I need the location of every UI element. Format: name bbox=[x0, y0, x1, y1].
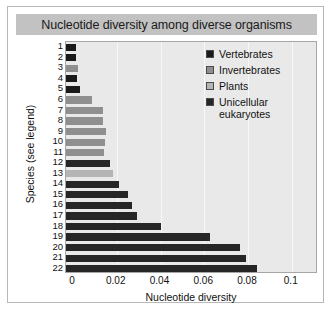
x-axis-ticklabel: 0 bbox=[69, 275, 75, 286]
y-axis-ticklabel: 9 bbox=[58, 126, 63, 136]
x-axis-title: Nucleotide diversity bbox=[65, 291, 317, 303]
x-axis-ticklabels: 00.020.040.060.080.1 bbox=[8, 275, 331, 289]
y-axis-ticklabel: 6 bbox=[58, 94, 63, 104]
y-axis-ticklabel: 13 bbox=[52, 168, 63, 178]
bar bbox=[66, 65, 78, 72]
x-axis-ticklabel: 0.06 bbox=[194, 275, 213, 286]
y-axis-ticklabel: 3 bbox=[58, 62, 63, 72]
legend-swatch-icon bbox=[206, 50, 214, 58]
bar bbox=[66, 212, 137, 219]
bar bbox=[66, 139, 105, 146]
bar bbox=[66, 149, 104, 156]
y-axis-ticklabel: 5 bbox=[58, 83, 63, 93]
y-axis-ticklabel: 7 bbox=[58, 105, 63, 115]
bar bbox=[66, 170, 113, 177]
y-axis-title: Species (see legend) bbox=[24, 89, 36, 219]
legend-item: Unicellulareukaryotes bbox=[206, 96, 310, 120]
bar bbox=[66, 223, 161, 230]
chart-title: Nucleotide diversity among diverse organ… bbox=[41, 18, 292, 32]
chart-title-bar: Nucleotide diversity among diverse organ… bbox=[16, 14, 317, 35]
x-axis-ticklabel: 0.04 bbox=[150, 275, 169, 286]
y-axis-ticklabel: 22 bbox=[52, 263, 63, 273]
y-axis-ticklabel: 17 bbox=[52, 210, 63, 220]
legend-label: Vertebrates bbox=[219, 48, 273, 60]
legend-swatch-icon bbox=[206, 98, 214, 106]
bar bbox=[66, 202, 132, 209]
legend-item: Vertebrates bbox=[206, 48, 310, 60]
x-axis-ticklabel: 0.1 bbox=[284, 275, 298, 286]
legend-label: Plants bbox=[219, 80, 248, 92]
figure-frame: Nucleotide diversity among diverse organ… bbox=[7, 6, 324, 303]
y-axis-ticklabels: 12345678910111213141516171819202122 bbox=[42, 41, 63, 273]
bar bbox=[66, 75, 77, 82]
x-axis-ticklabel: 0.08 bbox=[237, 275, 256, 286]
legend-item: Plants bbox=[206, 80, 310, 92]
legend-swatch-icon bbox=[206, 66, 214, 74]
y-axis-ticklabel: 11 bbox=[53, 147, 63, 157]
bar bbox=[66, 191, 128, 198]
bar bbox=[66, 160, 110, 167]
y-axis-ticklabel: 18 bbox=[52, 221, 63, 231]
chart-legend: VertebratesInvertebratesPlantsUnicellula… bbox=[206, 48, 310, 124]
legend-label: Unicellulareukaryotes bbox=[219, 96, 270, 120]
bar bbox=[66, 44, 76, 51]
y-axis-ticklabel: 21 bbox=[52, 252, 63, 262]
bar bbox=[66, 244, 240, 251]
y-axis-ticklabel: 16 bbox=[52, 199, 63, 209]
bar bbox=[66, 86, 80, 93]
bar bbox=[66, 233, 210, 240]
bar bbox=[66, 181, 119, 188]
legend-label: Invertebrates bbox=[219, 64, 280, 76]
y-axis-ticklabel: 4 bbox=[58, 73, 63, 83]
legend-swatch-icon bbox=[206, 82, 214, 90]
bar bbox=[66, 265, 257, 272]
y-axis-ticklabel: 10 bbox=[52, 136, 63, 146]
x-axis-ticklabel: 0.02 bbox=[106, 275, 125, 286]
y-axis-ticklabel: 12 bbox=[52, 157, 63, 167]
y-axis-ticklabel: 8 bbox=[58, 115, 63, 125]
bar bbox=[66, 117, 103, 124]
y-axis-ticklabel: 1 bbox=[58, 41, 63, 51]
bar bbox=[66, 96, 92, 103]
bar bbox=[66, 107, 103, 114]
y-axis-ticklabel: 14 bbox=[52, 178, 63, 188]
legend-item: Invertebrates bbox=[206, 64, 310, 76]
y-axis-ticklabel: 2 bbox=[58, 52, 63, 62]
bar bbox=[66, 54, 76, 61]
y-axis-ticklabel: 20 bbox=[52, 242, 63, 252]
y-axis-ticklabel: 15 bbox=[52, 189, 63, 199]
bar bbox=[66, 128, 106, 135]
y-axis-ticklabel: 19 bbox=[52, 231, 63, 241]
bar bbox=[66, 255, 246, 262]
